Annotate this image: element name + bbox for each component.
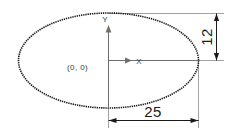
y-axis-label: Y [102, 15, 108, 24]
horizontal-dim-arrow-right-icon [191, 118, 199, 123]
vertical-dim-value: 12 [198, 28, 215, 46]
x-axis-arrow-icon [125, 58, 132, 64]
ellipse-drawing: Y X (0, 0) 12 25 [0, 0, 236, 136]
vertical-dimension-12: 12 [198, 14, 219, 61]
x-axis-label: X [136, 57, 142, 66]
origin-label: (0, 0) [67, 63, 88, 72]
vertical-dim-arrow-bottom-icon [214, 53, 219, 61]
horizontal-dim-value: 25 [144, 103, 162, 120]
vertical-dim-arrow-top-icon [214, 14, 219, 22]
horizontal-dim-arrow-left-icon [109, 118, 117, 123]
technical-drawing-canvas: Y X (0, 0) 12 25 [0, 0, 236, 136]
y-axis-arrow-icon [106, 25, 112, 33]
horizontal-dimension-25: 25 [109, 103, 199, 123]
coordinate-axes [106, 25, 200, 108]
